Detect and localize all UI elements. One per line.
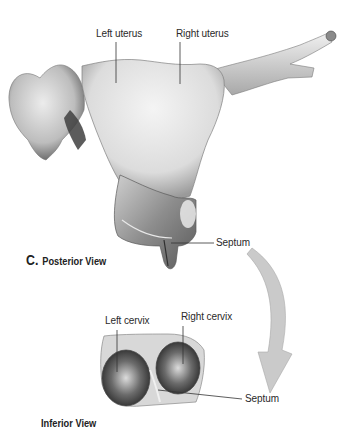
right-cervical-os <box>156 342 200 394</box>
anatomy-illustration <box>0 0 352 445</box>
right-fallopian-tube <box>212 33 332 95</box>
inferior-view-title: Inferior View <box>41 417 96 429</box>
posterior-view-illustration <box>9 31 336 269</box>
posterior-view-title: Posterior View <box>42 255 106 267</box>
label-right-uterus: Right uterus <box>176 28 229 39</box>
tube-fimbriae <box>326 31 336 41</box>
left-ovary <box>9 65 84 160</box>
curved-arrow <box>247 248 292 393</box>
uterus-body <box>82 59 224 200</box>
inferior-view-caption: Inferior View <box>41 413 96 431</box>
label-right-cervix: Right cervix <box>181 311 232 322</box>
inferior-view-illustration <box>101 334 205 406</box>
panel-letter: C. <box>26 252 38 268</box>
label-septum-inferior: Septum <box>245 393 279 404</box>
posterior-view-caption: C. Posterior View <box>26 251 106 269</box>
left-cervical-os <box>102 350 150 406</box>
label-septum-posterior: Septum <box>216 237 250 248</box>
label-left-uterus: Left uterus <box>96 28 142 39</box>
label-left-cervix: Left cervix <box>105 315 149 326</box>
